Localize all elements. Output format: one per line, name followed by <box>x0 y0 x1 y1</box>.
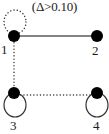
graph-node-label-3: 3 <box>10 119 17 132</box>
graph-node-1[interactable] <box>8 30 20 42</box>
graph-node-label-4: 4 <box>93 119 100 132</box>
graph-node-2[interactable] <box>91 30 103 42</box>
graph-canvas <box>0 0 109 134</box>
graph-node-4[interactable] <box>91 87 103 99</box>
graph-node-label-2: 2 <box>92 44 99 57</box>
graph-figure: (Δ>0.10) 1 2 3 4 <box>0 0 109 134</box>
graph-node-3[interactable] <box>8 87 20 99</box>
graph-node-label-1: 1 <box>1 43 8 56</box>
